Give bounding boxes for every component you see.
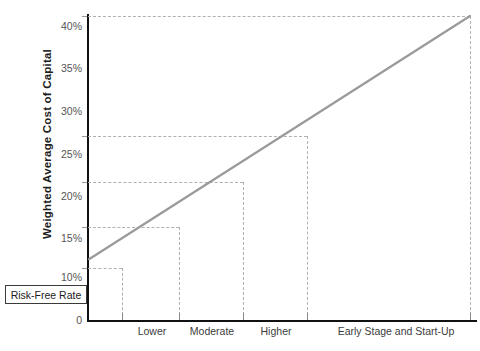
x-axis-label-lower: Lower (138, 325, 167, 337)
x-axis-label-higher: Higher (261, 325, 292, 337)
y-tick-label-20: 20% (42, 190, 82, 202)
x-tickmark-5 (470, 313, 471, 320)
y-tick-label-30: 30% (42, 105, 82, 117)
y-tick-label-25: 25% (42, 148, 82, 160)
y-tick-label-40: 40% (42, 20, 82, 32)
x-axis-line (87, 320, 477, 322)
risk-free-rate-callout: Risk-Free Rate (5, 285, 87, 304)
x-axis-label-early-stage: Early Stage and Start-Up (338, 325, 455, 337)
y-tickmark-40 (82, 16, 87, 17)
x-tickmark-1 (122, 313, 123, 320)
x-tickmark-3 (243, 313, 244, 320)
y-tick-label-35: 35% (42, 62, 82, 74)
gridline-horizontal-27 (88, 136, 307, 137)
gridline-horizontal-21 (88, 182, 243, 183)
x-tickmark-2 (179, 313, 180, 320)
gridline-horizontal-11 (88, 268, 122, 269)
y-axis-line (87, 14, 89, 322)
y-tick-label-15: 15% (42, 232, 82, 244)
gridline-horizontal-15 (88, 227, 179, 228)
y-tick-label-0: 0 (42, 314, 82, 326)
y-tickmark-11 (82, 268, 87, 269)
gridline-horizontal-40 (88, 16, 470, 17)
y-tickmark-15 (82, 227, 87, 228)
gridline-vertical-early-stage (470, 16, 471, 320)
wacc-chart: Weighted Average Cost of Capital 40% 35%… (0, 0, 480, 351)
gridline-vertical-lower (179, 227, 180, 320)
x-axis-label-moderate: Moderate (190, 325, 234, 337)
gridline-vertical-higher (307, 136, 308, 320)
x-tickmark-4 (307, 313, 308, 320)
gridline-vertical-moderate (243, 182, 244, 320)
y-tickmark-27 (82, 136, 87, 137)
y-tick-label-10: 10% (42, 271, 82, 283)
y-tickmark-21 (82, 182, 87, 183)
